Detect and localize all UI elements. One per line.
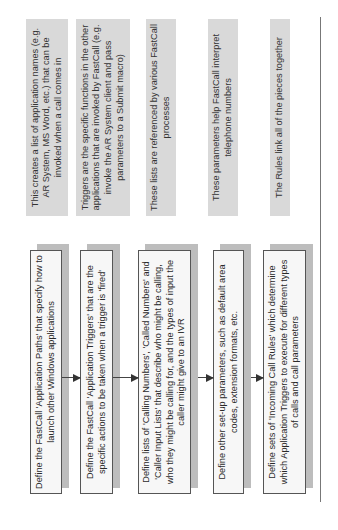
process-diagram: This creates a list of application names… [0, 0, 338, 530]
step-text: Define lists of 'Calling Numbers', 'Call… [141, 255, 187, 489]
note-lists: These lists are referenced by various Fa… [146, 19, 176, 216]
step-setup-parameters: Define other set-up parameters, such as … [213, 250, 244, 494]
note-parameters: These parameters help FastCall interpret… [208, 19, 238, 216]
note-application-triggers: Triggers are the specific functions in t… [76, 19, 130, 216]
step-application-triggers: Define the FastCall 'Application Trigger… [80, 250, 113, 494]
note-text: The Rules link all of the pieces togethe… [274, 37, 286, 198]
step-application-paths: Define the FastCall 'Application Paths' … [30, 250, 62, 494]
step-text: Define the FastCall 'Application Trigger… [85, 255, 108, 489]
arrow-connector [198, 377, 213, 378]
note-rules: The Rules link all of the pieces togethe… [270, 19, 290, 216]
note-application-paths: This creates a list of application names… [26, 19, 68, 216]
separator-line [320, 17, 321, 502]
note-text: These parameters help FastCall interpret… [211, 23, 234, 212]
note-text: Triggers are the specific functions in t… [80, 23, 126, 212]
note-text: These lists are referenced by various Fa… [149, 23, 172, 212]
step-text: Define sets of 'Incoming Call Rules' whi… [267, 255, 302, 489]
step-incoming-call-rules: Define sets of 'Incoming Call Rules' whi… [263, 250, 306, 494]
arrow-connector [62, 377, 80, 378]
step-text: Define other set-up parameters, such as … [217, 255, 240, 489]
arrow-connector [251, 377, 263, 378]
arrow-connector [113, 377, 138, 378]
note-text: This creates a list of application names… [30, 23, 65, 212]
step-text: Define the FastCall 'Application Paths' … [34, 255, 57, 489]
step-define-lists: Define lists of 'Calling Numbers', 'Call… [138, 250, 191, 494]
